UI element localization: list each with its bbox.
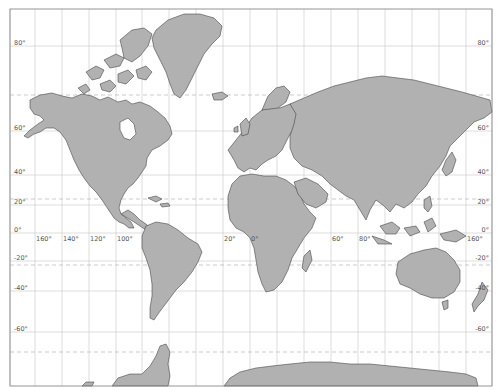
longitude-label: 160° bbox=[467, 235, 483, 243]
latitude-label: -40° bbox=[475, 284, 489, 292]
latitude-label: 40° bbox=[14, 168, 26, 176]
longitude-label: 60° bbox=[332, 235, 344, 243]
world-map: 80°60°40°20°0°-20°-40°-60° 80°60°40°20°0… bbox=[0, 0, 501, 390]
longitude-label: 20° bbox=[224, 235, 236, 243]
longitude-label: 80° bbox=[359, 235, 371, 243]
latitude-label: 20° bbox=[14, 198, 26, 206]
latitude-label: 0° bbox=[482, 226, 489, 234]
latitude-label: -60° bbox=[475, 325, 489, 333]
latitude-label: -20° bbox=[14, 254, 28, 262]
longitude-label: 160° bbox=[36, 235, 52, 243]
latitude-label: 80° bbox=[14, 39, 26, 47]
latitude-label: 20° bbox=[477, 198, 489, 206]
latitude-label: -60° bbox=[14, 325, 28, 333]
latitude-label: 80° bbox=[477, 39, 489, 47]
longitude-label: 140° bbox=[63, 235, 79, 243]
latitude-label: 40° bbox=[477, 168, 489, 176]
latitude-label: 60° bbox=[477, 124, 489, 132]
latitude-label: -40° bbox=[14, 284, 28, 292]
longitude-label: 120° bbox=[90, 235, 106, 243]
longitude-label: 100° bbox=[117, 235, 133, 243]
longitude-label: 0° bbox=[251, 235, 258, 243]
latitude-label: 60° bbox=[14, 124, 26, 132]
latitude-label: 0° bbox=[14, 226, 21, 234]
latitude-label: -20° bbox=[475, 254, 489, 262]
